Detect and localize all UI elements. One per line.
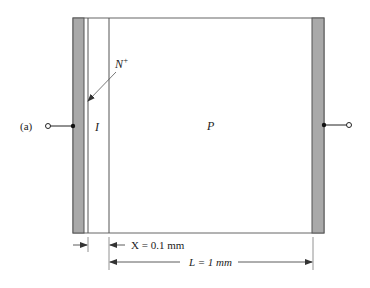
left-terminal-dot	[71, 124, 75, 128]
pin-diode-diagram: (a) I P N+ X = 0.1 mm L = 1 mm	[0, 0, 370, 288]
l-dimension-label: L = 1 mm	[188, 256, 232, 268]
left-terminal-open	[46, 124, 51, 129]
right-terminal-dot	[322, 123, 326, 127]
panel-label: (a)	[20, 120, 33, 133]
right-terminal-open	[347, 123, 352, 128]
x-dimension-label: X = 0.1 mm	[131, 239, 185, 251]
device-body	[73, 18, 324, 233]
p-region-label: P	[206, 119, 215, 133]
